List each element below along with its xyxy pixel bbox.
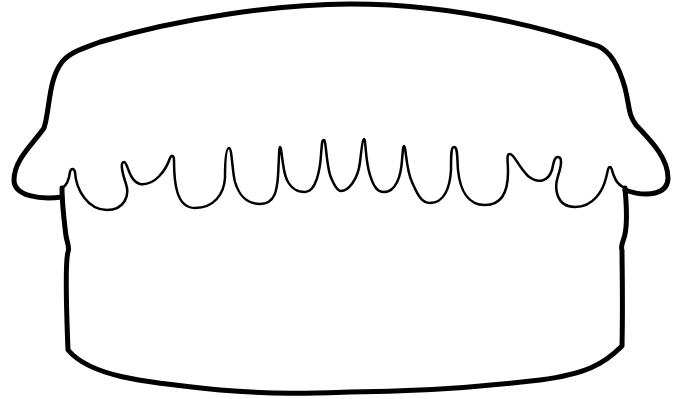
frosting-top-outline	[14, 4, 668, 198]
cake-outline-icon	[0, 0, 681, 399]
frosting-drip-line	[62, 139, 625, 210]
cake-body-outline	[62, 188, 627, 393]
cake-drawing: Cake outline coloring page	[0, 0, 681, 399]
